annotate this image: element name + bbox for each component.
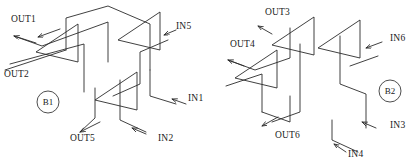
b1-path xyxy=(5,50,66,70)
b2-prism xyxy=(318,20,360,58)
b1-prisms xyxy=(36,12,160,110)
port-label-out1: OUT1 xyxy=(11,14,36,24)
b2-prism xyxy=(272,17,314,55)
b1-path xyxy=(120,80,146,132)
block-b2: B2 OUT3 OUT4 OUT6 IN6 IN3 IN4 xyxy=(226,7,405,159)
arrow-out6 xyxy=(262,117,278,126)
block-b1: B1 OUT1 OUT2 OUT5 IN5 IN1 IN2 xyxy=(4,6,203,143)
b1-badge-label: B1 xyxy=(43,97,54,107)
arrow-out5 xyxy=(80,122,100,132)
port-label-in2: IN2 xyxy=(158,133,173,143)
port-label-out2: OUT2 xyxy=(4,69,29,79)
b2-badge-label: B2 xyxy=(385,86,396,96)
port-label-in1: IN1 xyxy=(188,93,203,103)
arrow-in5 xyxy=(164,30,176,35)
diagram-canvas: B1 OUT1 OUT2 OUT5 IN5 IN1 IN2 xyxy=(0,0,415,167)
b2-prism xyxy=(235,50,277,88)
b1-badge: B1 xyxy=(37,91,59,113)
b2-path xyxy=(340,36,366,128)
arrow-out2 xyxy=(14,36,36,43)
b1-port-labels: OUT1 OUT2 OUT5 IN5 IN1 IN2 xyxy=(4,14,203,143)
b2-badge: B2 xyxy=(379,80,401,102)
arrow-in3 xyxy=(362,122,376,128)
arrow-out4 xyxy=(228,60,244,66)
b1-path xyxy=(14,22,108,62)
arrow-out1 xyxy=(38,29,60,37)
port-label-in3: IN3 xyxy=(390,120,405,130)
b1-waveguide-paths xyxy=(5,6,176,132)
port-label-in4: IN4 xyxy=(348,149,363,159)
arrow-in6 xyxy=(366,42,382,48)
port-label-out5: OUT5 xyxy=(70,133,95,143)
port-label-out4: OUT4 xyxy=(230,39,255,49)
b2-prisms xyxy=(235,17,360,88)
b2-path xyxy=(332,120,358,152)
port-label-in6: IN6 xyxy=(390,33,405,43)
port-label-out6: OUT6 xyxy=(275,130,300,140)
b1-path xyxy=(10,44,84,92)
b1-prism xyxy=(118,12,160,50)
b2-path xyxy=(350,56,378,66)
arrow-out3 xyxy=(258,26,272,34)
port-label-in5: IN5 xyxy=(176,21,191,31)
waveguide-schematic: B1 OUT1 OUT2 OUT5 IN5 IN1 IN2 xyxy=(0,0,415,167)
port-label-out3: OUT3 xyxy=(265,7,290,17)
b2-path xyxy=(272,44,300,122)
b1-prism xyxy=(95,72,137,110)
